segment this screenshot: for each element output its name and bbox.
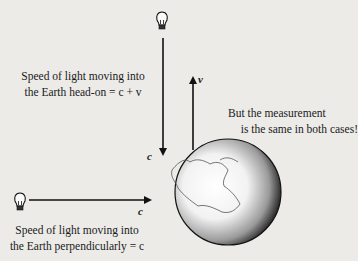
right-caption-line1: But the measurement <box>220 105 358 121</box>
earth-globe <box>172 139 281 245</box>
vertical-arrow-c-label: c <box>147 150 152 162</box>
bottom-caption-line1: Speed of light moving into <box>2 222 152 238</box>
lightbulb-icon-top <box>157 12 168 29</box>
velocity-v-label: v <box>198 73 203 85</box>
bottom-caption: Speed of light moving into the Earth per… <box>2 222 152 254</box>
right-caption: But the measurement is the same in both … <box>220 105 358 137</box>
right-caption-line2: is the same in both cases! <box>220 121 358 137</box>
top-caption: Speed of light moving into the Earth hea… <box>14 68 152 100</box>
horizontal-arrow-c-label: c <box>138 205 143 217</box>
lightbulb-icon-left <box>15 193 26 210</box>
top-caption-line1: Speed of light moving into <box>14 68 152 84</box>
top-caption-line2: the Earth head-on = c + v <box>14 84 152 100</box>
bottom-caption-line2: the Earth perpendicularly = c <box>2 238 152 254</box>
